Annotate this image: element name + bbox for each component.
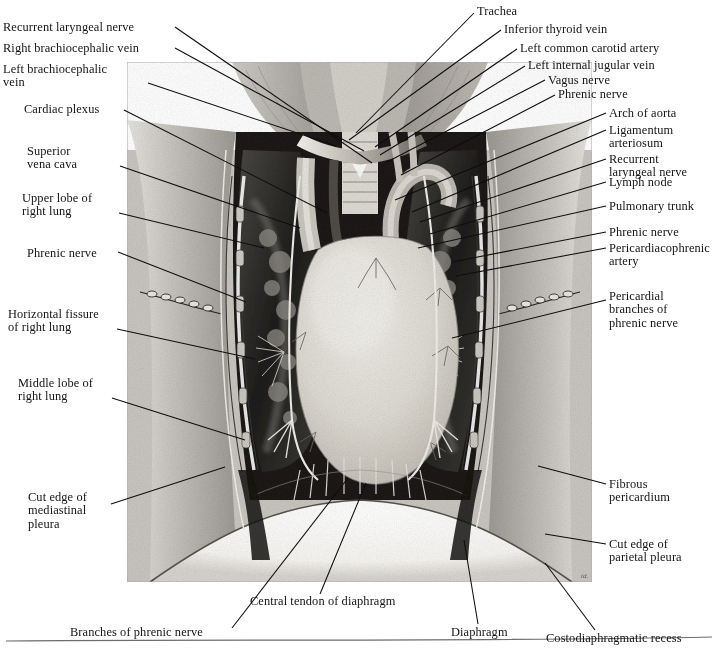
label-upper-lobe-of-right-lung: Upper lobe of right lung: [22, 192, 92, 219]
label-branches-of-phrenic-nerve: Branches of phrenic nerve: [70, 626, 203, 639]
label-diaphragm: Diaphragm: [451, 626, 508, 639]
label-cardiac-plexus: Cardiac plexus: [24, 103, 99, 116]
label-fibrous-pericardium: Fibrous pericardium: [609, 478, 670, 505]
plate-body: [127, 62, 592, 582]
label-left-common-carotid-artery: Left common carotid artery: [520, 42, 659, 55]
artist-signature: td.: [581, 572, 588, 580]
label-pulmonary-trunk: Pulmonary trunk: [609, 200, 694, 213]
label-trachea: Trachea: [477, 5, 517, 18]
label-left-brachiocephalic-vein: Left brachiocephalic vein: [3, 63, 107, 90]
label-superior-vena-cava: Superior vena cava: [27, 145, 77, 172]
label-left-internal-jugular-vein: Left internal jugular vein: [528, 59, 655, 72]
label-middle-lobe-of-right-lung: Middle lobe of right lung: [18, 377, 93, 404]
label-pericardiacophrenic-artery: Pericardiacophrenic artery: [609, 242, 710, 269]
label-horizontal-fissure-of-right-lung: Horizontal fissure of right lung: [8, 308, 99, 335]
label-pericardial-branches-of-phrenic-nerve: Pericardial branches of phrenic nerve: [609, 290, 678, 330]
label-phrenic-nerve-left: Phrenic nerve: [27, 247, 97, 260]
label-arch-of-aorta: Arch of aorta: [609, 107, 676, 120]
label-costodiaphragmatic-recess: Costodiaphragmatic recess: [546, 632, 682, 645]
label-phrenic-nerve-right-top: Phrenic nerve: [558, 88, 628, 101]
label-right-brachiocephalic-vein: Right brachiocephalic vein: [3, 42, 139, 55]
label-cut-edge-of-mediastinal-pleura: Cut edge of mediastinal pleura: [28, 491, 87, 531]
label-cut-edge-of-parietal-pleura: Cut edge of parietal pleura: [609, 538, 682, 565]
label-lymph-node: Lymph node: [609, 176, 672, 189]
label-inferior-thyroid-vein: Inferior thyroid vein: [504, 23, 607, 36]
label-phrenic-nerve-right: Phrenic nerve: [609, 226, 679, 239]
label-ligamentum-arteriosum: Ligamentum arteriosum: [609, 124, 673, 151]
label-central-tendon-of-diaphragm: Central tendon of diaphragm: [250, 595, 396, 608]
label-recurrent-laryngeal-nerve: Recurrent laryngeal nerve: [3, 21, 134, 34]
label-vagus-nerve: Vagus nerve: [548, 74, 610, 87]
